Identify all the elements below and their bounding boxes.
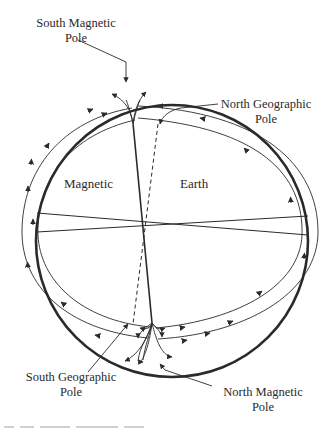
north-magnetic-pole-spray xyxy=(125,323,172,362)
label-line: North Magnetic xyxy=(212,385,314,400)
label-hemisphere-right: Earth xyxy=(180,176,208,191)
leader-south-magnetic xyxy=(78,40,126,82)
label-line: Pole xyxy=(212,400,314,415)
geographic-axis xyxy=(133,124,158,324)
leader-south-geographic xyxy=(88,324,128,372)
earth-circle xyxy=(36,105,308,377)
field-loop-left-inner xyxy=(38,120,150,327)
label-line: Pole xyxy=(206,112,326,127)
label-line: South Magnetic xyxy=(20,16,132,31)
label-line: South Geographic xyxy=(18,370,124,385)
cropped-caption xyxy=(4,426,194,432)
equator-line-2 xyxy=(37,216,308,232)
label-north-geographic-pole: North Geographic Pole xyxy=(206,97,326,127)
magnetic-axis xyxy=(133,123,152,323)
label-north-magnetic-pole: North Magnetic Pole xyxy=(212,385,314,415)
label-line: Pole xyxy=(18,385,124,400)
field-loop-left-outer xyxy=(22,108,148,338)
label-line: North Geographic xyxy=(206,97,326,112)
magnetic-earth-diagram xyxy=(0,0,330,432)
label-south-geographic-pole: South Geographic Pole xyxy=(18,370,124,400)
field-loop-right-outer xyxy=(138,106,318,339)
label-hemisphere-left: Magnetic xyxy=(64,176,113,191)
label-line: Pole xyxy=(20,31,132,46)
label-south-magnetic-pole: South Magnetic Pole xyxy=(20,16,132,46)
